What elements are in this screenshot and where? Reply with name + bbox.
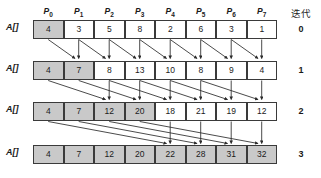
- prefix-sum-scan-diagram: P0 P1 P2 P3 P4 P5 P6 P7 迭代 A[] 4 3 5 8 2…: [0, 0, 321, 178]
- cell-r0-c2: 5: [94, 20, 125, 39]
- cell-r3-c1: 7: [64, 145, 95, 164]
- iteration-number-2: 2: [284, 106, 318, 116]
- cell-r3-c7: 32: [247, 145, 278, 164]
- cell-r1-c6: 9: [216, 61, 247, 80]
- column-header-p4-sub: 4: [171, 11, 175, 18]
- cell-r0-c7: 1: [247, 20, 278, 39]
- cell-r0-c6: 3: [216, 20, 247, 39]
- cell-r3-c2: 12: [94, 145, 125, 164]
- cell-r3-c0: 4: [33, 145, 64, 164]
- column-header-p0-sub: 0: [49, 11, 53, 18]
- cell-r1-c1: 7: [64, 61, 95, 80]
- column-header-p1: P1: [64, 6, 95, 18]
- cell-r1-c5: 8: [186, 61, 217, 80]
- cell-r2-c3: 20: [125, 102, 156, 121]
- iteration-column-header: 迭代: [284, 6, 318, 20]
- cell-r0-c1: 3: [64, 20, 95, 39]
- cell-r3-c3: 20: [125, 145, 156, 164]
- row-label-0: A[]: [6, 22, 30, 32]
- cell-r2-c1: 7: [64, 102, 95, 121]
- arrows-iter1-to-iter2: [48, 81, 262, 100]
- cell-r2-c4: 18: [155, 102, 186, 121]
- cell-r2-c6: 19: [216, 102, 247, 121]
- cell-r2-c7: 12: [247, 102, 278, 121]
- cell-r0-c3: 8: [125, 20, 156, 39]
- cell-r1-c4: 10: [155, 61, 186, 80]
- column-header-p3-sub: 3: [141, 11, 145, 18]
- cell-r2-c0: 4: [33, 102, 64, 121]
- cell-r2-c2: 12: [94, 102, 125, 121]
- cell-r0-c0: 4: [33, 20, 64, 39]
- cell-r1-c0: 4: [33, 61, 64, 80]
- cell-r1-c7: 4: [247, 61, 278, 80]
- cell-r2-c5: 21: [186, 102, 217, 121]
- column-header-p2-sub: 2: [110, 11, 114, 18]
- column-header-p3: P3: [125, 6, 156, 18]
- cell-r3-c5: 28: [186, 145, 217, 164]
- column-header-p2: P2: [94, 6, 125, 18]
- cell-r3-c6: 31: [216, 145, 247, 164]
- column-header-p0: P0: [33, 6, 64, 18]
- row-label-3: A[]: [6, 147, 30, 157]
- column-header-p5: P5: [186, 6, 217, 18]
- cell-r0-c4: 2: [155, 20, 186, 39]
- iteration-number-3: 3: [284, 149, 318, 159]
- column-header-p5-sub: 5: [202, 11, 206, 18]
- row-label-2: A[]: [6, 104, 30, 114]
- cell-r1-c2: 8: [94, 61, 125, 80]
- column-header-p6-sub: 6: [232, 11, 236, 18]
- iteration-number-0: 0: [284, 24, 318, 34]
- arrows-iter0-to-iter1: [48, 40, 262, 59]
- column-header-p1-sub: 1: [80, 11, 84, 18]
- cell-r1-c3: 13: [125, 61, 156, 80]
- row-label-1: A[]: [6, 63, 30, 73]
- column-header-p4: P4: [155, 6, 186, 18]
- column-header-p7: P7: [247, 6, 278, 18]
- arrows-iter2-to-iter3: [48, 122, 262, 144]
- cell-r3-c4: 22: [155, 145, 186, 164]
- cell-r0-c5: 6: [186, 20, 217, 39]
- column-header-p7-sub: 7: [263, 11, 267, 18]
- iteration-number-1: 1: [284, 65, 318, 75]
- column-header-p6: P6: [216, 6, 247, 18]
